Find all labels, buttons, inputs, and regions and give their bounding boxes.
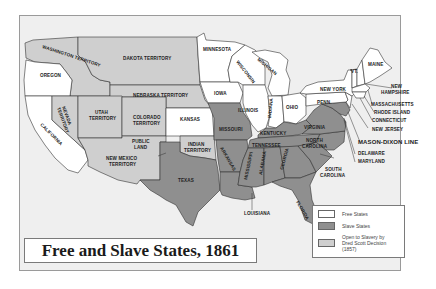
label-minnesota: MINNESOTA [203, 47, 232, 52]
label-new-hampshire-2: HAMPSHIRE [381, 90, 409, 95]
open-to-slavery-swatch [318, 239, 335, 247]
label-louisiana: LOUISIANA [244, 211, 271, 216]
label-utah-territory-2: TERRITORY [89, 116, 116, 121]
map-title-box: Free and Slave States, 1861 [24, 238, 257, 263]
region-connecticut-rhode-island [352, 92, 366, 98]
legend-item-open-to-slavery: Open to Slavery by Dred Scott Decision (… [318, 234, 399, 252]
label-virginia: VIRGINIA [304, 125, 326, 130]
label-dakota-territory: DAKOTA TERRITORY [123, 56, 171, 61]
legend-item-slave-states: Slave States [318, 222, 399, 230]
label-delaware: DELAWARE [358, 151, 385, 156]
free-states-swatch [318, 210, 335, 218]
label-south-carolina-2: CAROLINA [320, 173, 346, 178]
label-illinois: ILLINOIS [238, 108, 258, 113]
label-new-hampshire: NEW [391, 84, 403, 89]
label-new-mexico-territory-2: TERRITORY [109, 162, 136, 167]
label-maryland: MARYLAND [358, 159, 385, 164]
label-maine: MAINE [368, 62, 383, 67]
label-missouri: MISSOURI [219, 127, 243, 132]
label-nebraska-territory: NEBRASKA TERRITORY [133, 93, 188, 98]
label-public-land-2: LAND [134, 145, 148, 150]
label-indian-territory-2: TERRITORY [184, 148, 211, 153]
label-ohio: OHIO [286, 105, 298, 110]
label-rhode-island: RHODE ISLAND [374, 110, 411, 115]
label-public-land: PUBLIC [132, 139, 150, 144]
label-massachusetts: MASSACHUSETTS [371, 102, 414, 107]
label-north-carolina: NORTH [306, 138, 323, 143]
legend-label-line2: Dred Scott Decision (1857) [342, 240, 386, 252]
label-kentucky: KENTUCKY [260, 131, 286, 136]
map-title: Free and Slave States, 1861 [42, 241, 240, 261]
region-new-york [300, 70, 356, 96]
label-new-mexico-territory: NEW MEXICO [106, 156, 137, 161]
label-colorado-territory: COLORADO [133, 115, 161, 120]
label-south-carolina: SOUTH [325, 167, 342, 172]
label-kansas: KANSAS [180, 117, 200, 122]
legend-label: Free States [342, 211, 368, 217]
label-new-jersey: NEW JERSEY [372, 127, 403, 132]
slave-states-swatch [318, 222, 335, 230]
legend-item-free-states: Free States [318, 210, 399, 218]
label-connecticut: CONNECTICUT [372, 118, 407, 123]
label-texas: TEXAS [178, 178, 194, 183]
label-utah-territory: UTAH [95, 110, 108, 115]
label-oregon: OREGON [40, 73, 62, 78]
label-vt: VT. [351, 69, 358, 74]
label-new-york: NEW YORK [320, 87, 347, 92]
label-penn: PENN. [317, 100, 332, 105]
label-north-carolina-2: CAROLINA [302, 144, 328, 149]
map-legend: Free States Slave States Open to Slavery… [312, 205, 405, 258]
legend-label: Slave States [342, 223, 370, 229]
label-indian-territory: INDIAN [188, 142, 205, 147]
region-kansas [166, 108, 214, 136]
label-colorado-territory-2: TERRITORY [133, 121, 160, 126]
label-tennessee: TENNESSEE [252, 143, 281, 148]
legend-label: Open to Slavery by Dred Scott Decision (… [342, 234, 399, 252]
label-mason-dixon-line: MASON-DIXON LINE [358, 139, 418, 145]
label-iowa: IOWA [214, 91, 227, 96]
